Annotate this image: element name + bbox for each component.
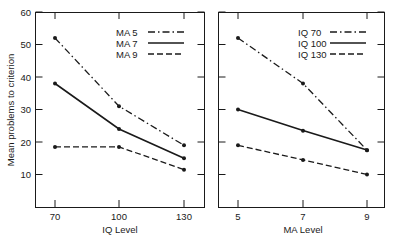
data-point [236, 108, 240, 112]
x-tick-label: 7 [300, 211, 305, 222]
legend-label: MA 9 [116, 49, 138, 60]
right-legend: IQ 70IQ 100IQ 130 [298, 27, 366, 60]
data-point [117, 104, 121, 108]
chart-canvas: 102030405060 70100130 579 MA 5MA 7MA 9 I… [0, 0, 393, 240]
y-tick-label: 60 [20, 7, 31, 18]
data-point [53, 82, 57, 86]
legend-label: IQ 130 [298, 49, 327, 60]
data-point [301, 129, 305, 133]
data-point [301, 158, 305, 162]
data-point [236, 143, 240, 147]
data-point [117, 127, 121, 131]
data-point [182, 143, 186, 147]
data-point [53, 36, 57, 40]
data-point [117, 145, 121, 149]
legend-label: MA 7 [116, 38, 138, 49]
x-tick-label: 5 [235, 211, 240, 222]
data-point [182, 168, 186, 172]
x-tick-label: 9 [364, 211, 369, 222]
legend-label: IQ 100 [298, 38, 327, 49]
left-x-axis-label: IQ Level [102, 224, 137, 235]
legend-label: IQ 70 [298, 27, 321, 38]
legend-label: MA 5 [116, 27, 138, 38]
data-point [182, 156, 186, 160]
y-axis-label: Mean problems to criterion [5, 54, 16, 166]
right-x-axis-label: MA Level [283, 224, 322, 235]
left-legend: MA 5MA 7MA 9 [116, 27, 184, 60]
left-y-axis: 102030405060 [20, 7, 204, 181]
y-tick-label: 20 [20, 137, 31, 148]
x-tick-label: 70 [50, 211, 61, 222]
data-point [301, 82, 305, 86]
data-point [236, 36, 240, 40]
y-tick-label: 30 [20, 104, 31, 115]
y-tick-label: 40 [20, 72, 31, 83]
data-point [365, 173, 369, 177]
y-tick-label: 50 [20, 39, 31, 50]
data-point [365, 148, 369, 152]
data-point [53, 145, 57, 149]
x-tick-label: 100 [111, 211, 127, 222]
x-tick-label: 130 [176, 211, 192, 222]
y-tick-label: 10 [20, 169, 31, 180]
